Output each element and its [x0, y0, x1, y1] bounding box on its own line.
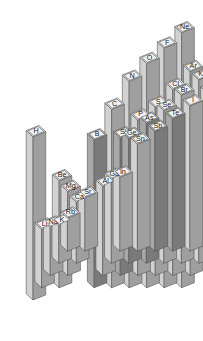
bar-face-left: [26, 131, 33, 300]
element-symbol-sn: Sn: [136, 134, 145, 143]
element-symbol-b: B: [95, 129, 100, 138]
element-symbol-f: F: [165, 38, 170, 47]
bar-face-left: [105, 173, 112, 263]
element-symbol-te: Te: [172, 108, 180, 117]
element-symbol-ne: Ne: [180, 22, 189, 31]
element-symbol-mg: Mg: [66, 181, 76, 190]
element-symbol-se: Se: [162, 100, 171, 109]
element-symbol-k: K: [59, 215, 64, 224]
element-symbol-al: Al: [102, 176, 109, 185]
element-symbol-n: N: [129, 71, 134, 80]
bar-face-right: [172, 113, 185, 251]
bar-face-right: [67, 213, 80, 251]
bar-in[interactable]: [113, 166, 133, 251]
bar-sn[interactable]: [131, 133, 151, 251]
bar-sb[interactable]: [148, 120, 168, 251]
element-symbol-in: In: [120, 167, 126, 176]
element-symbol-c: C: [112, 99, 117, 108]
bar-i[interactable]: [183, 94, 203, 251]
bar-te[interactable]: [166, 107, 186, 251]
bar-face-right: [120, 172, 133, 251]
element-symbol-sr: Sr: [84, 187, 92, 196]
chart-stage: HNeFONCBBeLiArClSPSiAlMgNaKrBrSeAsGeGaCa…: [0, 0, 203, 341]
bars-layer: [26, 21, 203, 300]
element-symbol-i: I: [192, 95, 194, 104]
bar-face-left: [43, 221, 50, 276]
bar-face-left: [35, 223, 42, 288]
element-symbol-cl: Cl: [172, 79, 179, 88]
element-symbol-sb: Sb: [153, 121, 162, 130]
bar-face-right: [155, 126, 168, 251]
bar-face-left: [113, 171, 120, 251]
isometric-bar-chart: HNeFONCBBeLiArClSPSiAlMgNaKrBrSeAsGeGaCa…: [0, 0, 203, 341]
element-symbol-kr: Kr: [198, 69, 203, 78]
element-symbol-h: H: [33, 126, 38, 135]
bar-face-right: [85, 193, 98, 252]
element-symbol-br: Br: [181, 85, 189, 94]
element-symbol-be: Be: [58, 170, 67, 179]
bar-face-left: [52, 219, 59, 263]
element-symbol-rb: Rb: [66, 207, 75, 216]
bar-face-right: [190, 101, 203, 251]
element-symbol-li: Li: [42, 219, 48, 228]
element-symbol-ar: Ar: [190, 61, 198, 70]
bar-face-right: [137, 139, 150, 251]
element-symbol-o: O: [147, 53, 153, 62]
